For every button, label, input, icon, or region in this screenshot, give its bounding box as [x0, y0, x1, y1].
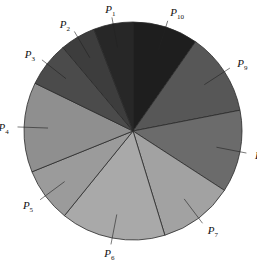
- slice-label-p6: P6: [103, 247, 115, 262]
- slice-label-p4: P4: [0, 121, 9, 136]
- slice-label-p10: P10: [169, 6, 184, 21]
- pie-slices: [24, 22, 242, 240]
- slice-label-p8: P8: [254, 149, 257, 164]
- slice-label-p2: P2: [59, 18, 71, 33]
- slice-label-p5: P5: [22, 199, 34, 214]
- pie-chart: P10P9P8P7P6P5P4P3P2P1: [0, 0, 257, 262]
- slice-label-p9: P9: [236, 57, 248, 72]
- slice-label-p3: P3: [24, 48, 36, 63]
- slice-label-p7: P7: [207, 224, 219, 239]
- slice-label-p1: P1: [104, 3, 116, 18]
